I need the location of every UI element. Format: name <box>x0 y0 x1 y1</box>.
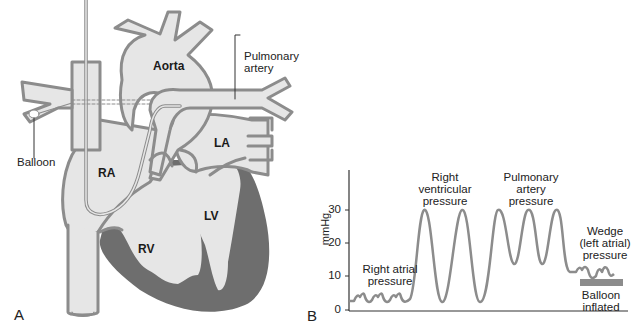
y-tick-10: 10 <box>317 269 341 281</box>
y-tick-20: 20 <box>317 236 341 248</box>
label-rv: RV <box>138 243 154 256</box>
label-ra: RA <box>98 167 115 180</box>
annot-wedge-3: pressure <box>574 249 636 262</box>
label-pulmonary-artery-2: artery <box>244 62 273 75</box>
balloon-inflated-bar <box>580 279 623 286</box>
panel-a-letter: A <box>14 308 24 321</box>
inferior-vena-cava <box>68 225 98 315</box>
y-tick-30: 30 <box>317 203 341 215</box>
heart-diagram <box>22 0 292 317</box>
y-tick-0: 0 <box>317 303 341 315</box>
balloon-icon <box>29 110 39 118</box>
label-balloon: Balloon <box>17 156 55 169</box>
annot-rv-3: pressure <box>410 195 480 208</box>
label-la: LA <box>214 137 230 150</box>
label-aorta: Aorta <box>153 60 184 73</box>
annot-balloon-2: inflated <box>572 301 630 314</box>
annot-right-atrial-2: pressure <box>356 275 424 288</box>
label-lv: LV <box>204 210 218 223</box>
annot-pa-3: pressure <box>494 195 568 208</box>
panel-b-letter: B <box>307 309 317 322</box>
pulmonary-vein <box>248 136 272 146</box>
